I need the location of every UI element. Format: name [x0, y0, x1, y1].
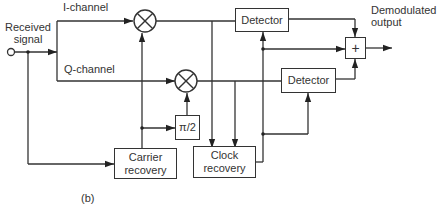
output-line1: Demodulated — [371, 4, 436, 16]
output-line2: output — [371, 16, 436, 28]
q-channel-label: Q-channel — [64, 63, 115, 75]
figure-caption: (b) — [81, 192, 94, 204]
mixer-i-icon — [134, 10, 156, 32]
clock-recovery-line1: Clock — [211, 149, 239, 162]
carrier-recovery-line1: Carrier — [129, 151, 163, 164]
carrier-recovery-line2: recovery — [124, 164, 166, 177]
detector-q-block: Detector — [281, 68, 336, 93]
phase-shift-block: π/2 — [175, 115, 200, 140]
detector-i-block: Detector — [235, 8, 289, 32]
mixer-q-icon — [175, 70, 197, 92]
junction-dots — [26, 47, 265, 136]
input-terminal-icon — [8, 49, 15, 56]
received-signal-line1: Received — [2, 21, 54, 33]
i-channel-label: I-channel — [63, 1, 108, 13]
clock-recovery-block: Clock recovery — [193, 146, 256, 178]
clock-recovery-line2: recovery — [203, 162, 245, 175]
carrier-recovery-block: Carrier recovery — [114, 148, 177, 179]
received-signal-label: Received signal — [2, 21, 54, 45]
adder-block: + — [345, 37, 366, 59]
received-signal-line2: signal — [2, 33, 54, 45]
demodulated-output-label: Demodulated output — [371, 4, 436, 28]
